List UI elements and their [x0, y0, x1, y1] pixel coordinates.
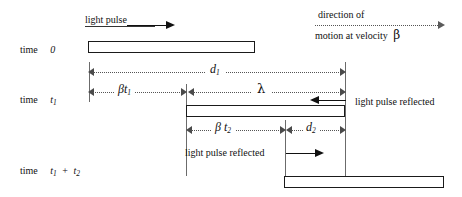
measure-label-d1: d1: [205, 64, 225, 78]
time-value-t1: t: [40, 94, 53, 105]
time-value-t1-t2-a: t: [40, 165, 53, 176]
measure-label-beta-t1: βt1: [114, 84, 135, 98]
time-label-t1: time t1: [20, 94, 57, 108]
time-sub-t1-t2-b: 2: [76, 169, 80, 178]
caption-direction-of: direction of: [318, 9, 364, 20]
measure-label-lambda: λ: [251, 83, 271, 95]
reflected-pulse-arrow-right-icon: [310, 96, 346, 105]
measure-sub-beta-t2: 2: [227, 126, 231, 135]
motion-at-velocity-text: motion at velocity: [315, 30, 388, 41]
time-label-0: time 0: [20, 44, 55, 55]
tick-right: [345, 62, 346, 176]
measure-label-beta-t2: β t2: [211, 122, 235, 136]
caption-light-pulse-reflected-bottom: light pulse reflected: [185, 147, 264, 158]
beta-symbol: β: [390, 28, 400, 42]
measure-symbol-lambda: λ: [257, 81, 265, 96]
reflected-pulse-arrow-bottom-icon: [286, 149, 324, 158]
caption-light-pulse-reflected-right: light pulse reflected: [355, 96, 434, 107]
rod-time-t1: [186, 105, 345, 117]
measure-beta-t2: [186, 126, 286, 135]
measure-beta-t1: [88, 88, 187, 97]
measure-sub-d1: 1: [216, 68, 220, 77]
measure-sub-beta-t1: 1: [127, 88, 131, 97]
caption-motion-at-velocity: motion at velocity β: [315, 30, 400, 41]
time-value-0: 0: [40, 44, 55, 55]
measure-sub-d2: 2: [312, 126, 316, 135]
time-word-t1: time: [20, 94, 38, 105]
time-label-t1-t2: time t1 + t2: [20, 165, 80, 179]
time-sub-t1: 1: [53, 98, 57, 107]
measure-symbol-beta-t2: β t: [215, 120, 227, 134]
caption-light-pulse: light pulse: [85, 14, 127, 25]
rod-time-0: [88, 41, 255, 53]
time-operator: +: [59, 165, 71, 176]
rod-time-t1-t2: [284, 176, 444, 188]
light-pulse-arrow-icon: [127, 21, 175, 30]
time-word-0: time: [20, 44, 38, 55]
time-word-t1-t2: time: [20, 165, 38, 176]
figure-canvas: light pulse direction of motion at veloc…: [0, 0, 462, 197]
direction-of-motion-arrow-icon: [315, 21, 445, 30]
measure-label-d2: d2: [303, 122, 319, 136]
measure-symbol-beta-t1: βt: [118, 82, 127, 96]
time-sub-t1-t2-a: 1: [53, 169, 57, 178]
